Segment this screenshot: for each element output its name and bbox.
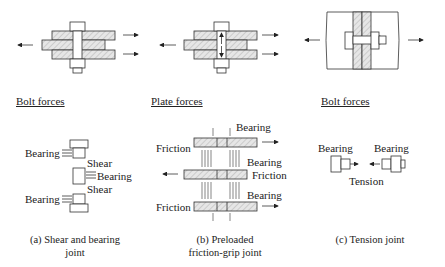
caption-a: (a) Shear and bearing joint [20, 233, 130, 259]
diagram-canvas [0, 0, 445, 267]
label-bearing-left: Bearing [318, 142, 353, 154]
friction-grip-joint-drawing [160, 22, 278, 73]
label-shear-top: Shear [87, 157, 112, 169]
bolt-forces-drawing-c [331, 156, 405, 172]
plate-forces-header: Plate forces [151, 95, 203, 107]
label-shear-bottom: Shear [87, 183, 112, 195]
label-friction-top: Friction [156, 142, 191, 154]
label-bearing-top: Bearing [25, 147, 60, 159]
label-bearing-top: Bearing [236, 121, 271, 133]
bolt-forces-header-c: Bolt forces [321, 95, 370, 107]
label-bearing-mid: Bearing [97, 170, 132, 182]
caption-b-line1: (b) Preloaded [170, 233, 280, 246]
tension-joint-drawing [305, 12, 423, 69]
label-friction-bottom: Friction [156, 201, 191, 213]
label-bearing-bottom: Bearing [25, 193, 60, 205]
caption-b-line2: friction-grip joint [170, 246, 280, 259]
caption-c: (c) Tension joint [315, 233, 425, 246]
label-tension: Tension [349, 175, 384, 187]
bolt-forces-drawing-a [62, 140, 96, 212]
caption-a-line1: (a) Shear and bearing [20, 233, 130, 246]
caption-a-line2: joint [20, 246, 130, 259]
label-friction-mid: Friction [252, 169, 287, 181]
label-bearing-right: Bearing [374, 142, 409, 154]
shear-joint-drawing [18, 22, 138, 73]
label-bearing-bottom: Bearing [247, 189, 282, 201]
bolt-forces-header-a: Bolt forces [16, 95, 65, 107]
caption-b: (b) Preloaded friction-grip joint [170, 233, 280, 259]
label-bearing-mid: Bearing [247, 156, 282, 168]
